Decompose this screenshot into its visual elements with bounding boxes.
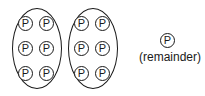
token-letter: P [43,18,50,29]
token-group2-2: P [95,16,110,31]
token-letter: P [164,35,171,46]
token-letter: P [22,43,29,54]
token-group2-3: P [74,41,89,56]
token-letter: P [78,43,85,54]
token-group1-4: P [39,41,54,56]
remainder-label: (remainder) [139,51,201,64]
token-letter: P [43,68,50,79]
token-group2-4: P [95,41,110,56]
token-letter: P [99,68,106,79]
token-letter: P [78,18,85,29]
token-group2-5: P [74,66,89,81]
token-letter: P [78,68,85,79]
token-group1-5: P [18,66,33,81]
token-group1-1: P [18,16,33,31]
token-letter: P [99,18,106,29]
remainder-token: P [160,33,175,48]
token-letter: P [22,18,29,29]
token-group1-3: P [18,41,33,56]
token-group1-2: P [39,16,54,31]
token-letter: P [22,68,29,79]
token-group1-6: P [39,66,54,81]
token-letter: P [99,43,106,54]
token-group2-6: P [95,66,110,81]
token-letter: P [43,43,50,54]
token-group2-1: P [74,16,89,31]
division-remainder-diagram: P P P P P P P P P P P P P (remainder) [0,0,205,96]
